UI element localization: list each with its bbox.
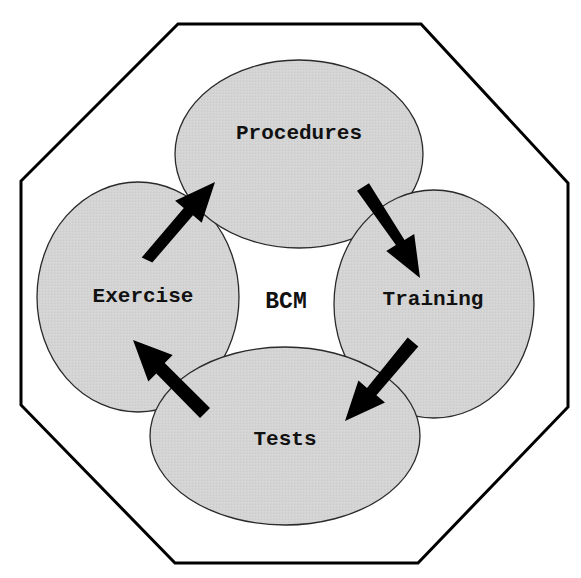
bcm-cycle-diagram: Procedures Training Tests Exercise BCM	[0, 0, 581, 578]
label-exercise: Exercise	[93, 285, 194, 308]
label-training: Training	[383, 288, 484, 311]
label-procedures: Procedures	[236, 122, 362, 145]
label-tests: Tests	[253, 428, 316, 451]
label-center-bcm: BCM	[265, 289, 306, 315]
